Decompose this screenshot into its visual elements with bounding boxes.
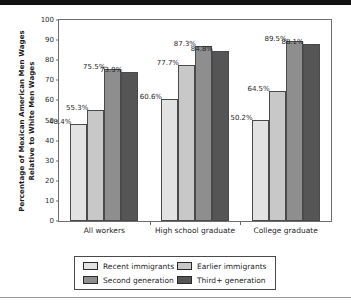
legend-item-label: Third+ generation (197, 276, 266, 285)
legend-swatch-icon (83, 262, 98, 270)
legend-item-label: Second generation (103, 276, 174, 285)
legend-swatch-icon (177, 276, 192, 284)
legend-item[interactable]: Recent immigrants (83, 262, 177, 271)
bar (121, 72, 138, 221)
bar (303, 44, 320, 221)
bar (252, 120, 269, 221)
y-axis-tick-mark (56, 140, 59, 141)
y-axis-title-line-1: Percentage of Mexican American Men Wages (17, 30, 27, 212)
legend-swatch-icon (177, 262, 192, 270)
x-axis-group-separator (240, 221, 241, 225)
bar-value-label: 84.8% (191, 45, 213, 53)
bar (161, 99, 178, 221)
bar-value-label: 60.6% (140, 93, 162, 101)
legend-item[interactable]: Third+ generation (177, 276, 271, 285)
x-axis-group-separator (150, 221, 151, 225)
bar (195, 46, 212, 221)
legend-swatch-icon (83, 276, 98, 284)
x-axis-category-label: All workers (84, 226, 125, 235)
y-axis-tick-mark (56, 180, 59, 181)
y-axis-tick-mark (56, 160, 59, 161)
y-axis-tick-mark (56, 221, 59, 222)
bar-value-label: 48.4% (49, 118, 71, 126)
y-axis-title-line-2: Relative to White Men Wages (27, 30, 37, 212)
y-axis-tick-mark (56, 20, 59, 21)
bar (269, 91, 286, 221)
y-axis-tick-mark (56, 200, 59, 201)
legend-item[interactable]: Earlier immigrants (177, 262, 271, 271)
y-axis-tick-mark (56, 80, 59, 81)
plot-inner: 010203040506070809010048.4%55.3%75.5%73.… (59, 20, 331, 221)
x-axis-category-label: College graduate (253, 226, 317, 235)
bar-value-label: 73.9% (100, 66, 122, 74)
y-axis-title: Percentage of Mexican American Men Wages… (14, 19, 40, 223)
chart-page: Percentage of Mexican American Men Wages… (0, 0, 351, 306)
legend-item-label: Recent immigrants (103, 262, 174, 271)
bar (104, 69, 121, 221)
bar-value-label: 77.7% (157, 59, 179, 67)
legend-item[interactable]: Second generation (83, 276, 177, 285)
chart-legend: Recent immigrantsEarlier immigrantsSecon… (74, 256, 276, 290)
legend-grid: Recent immigrantsEarlier immigrantsSecon… (75, 257, 275, 289)
bar (178, 65, 195, 221)
plot-area: 010203040506070809010048.4%55.3%75.5%73.… (58, 19, 332, 222)
bar-value-label: 55.3% (66, 104, 88, 112)
bar-value-label: 88.1% (281, 38, 303, 46)
bar-value-label: 50.2% (230, 114, 252, 122)
bottom-rule (0, 297, 351, 298)
bar (87, 110, 104, 221)
bar-value-label: 64.5% (247, 85, 269, 93)
y-axis-tick-mark (56, 60, 59, 61)
legend-item-label: Earlier immigrants (197, 262, 267, 271)
top-decorative-band (0, 0, 351, 5)
y-axis-tick-mark (56, 100, 59, 101)
y-axis-tick-mark (56, 40, 59, 41)
bar (212, 51, 229, 221)
bar (70, 124, 87, 221)
bar (286, 41, 303, 221)
x-axis-category-label: High school graduate (155, 226, 235, 235)
